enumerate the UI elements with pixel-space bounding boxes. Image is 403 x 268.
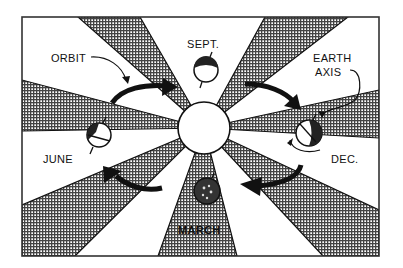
label-sept: SEPT. [187,38,219,50]
label-june: JUNE [43,153,73,165]
label-dec: DEC. [331,153,358,165]
orbit-pointer-arrowhead [122,76,130,84]
label-orbit: ORBIT [51,52,86,64]
label-earth-axis-line1: EARTH [313,52,352,64]
sun [178,102,230,154]
label-march: MARCH [178,224,220,236]
orbit-pointer-line [91,57,126,80]
label-earth-axis-line2: AXIS [315,66,341,78]
seasons-diagram: ORBIT SEPT. EARTH AXIS JUNE DEC. MARCH [0,0,403,268]
orbit-arrow-june-to-sept [112,78,178,103]
earth-sept [194,52,218,88]
